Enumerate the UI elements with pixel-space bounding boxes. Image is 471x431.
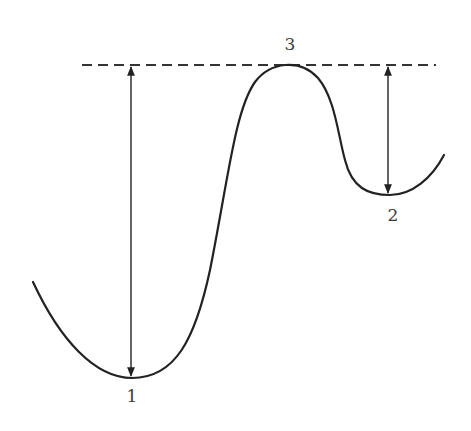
energy-curve (33, 65, 444, 378)
label-point-1: 1 (127, 386, 138, 406)
label-point-3: 3 (285, 34, 296, 54)
label-point-2: 2 (388, 205, 399, 225)
energy-diagram: 3 1 2 (0, 0, 471, 431)
